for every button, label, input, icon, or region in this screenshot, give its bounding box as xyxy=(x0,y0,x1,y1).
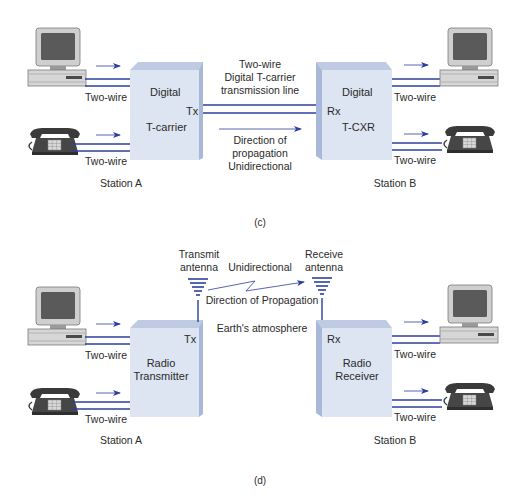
antenna-label: antenna xyxy=(305,261,343,273)
box-label: Digital xyxy=(150,86,181,98)
box-label: T-CXR xyxy=(342,121,375,133)
telephone-icon xyxy=(444,126,495,153)
receive-antenna-icon xyxy=(312,278,332,294)
two-wire-label: Two-wire xyxy=(394,154,436,166)
two-wire-label: Two-wire xyxy=(85,413,127,425)
station-a-phone-wires xyxy=(72,135,132,151)
direction-label: Direction of xyxy=(233,134,286,146)
link-label: transmission line xyxy=(221,84,299,96)
tx-port-label: Tx xyxy=(184,333,197,345)
two-wire-label: Two-wire xyxy=(394,348,436,360)
station-a-computer-wires xyxy=(85,66,132,86)
station-b-phone-wires xyxy=(392,391,442,407)
two-wire-label: Two-wire xyxy=(394,91,436,103)
station-a-computer-wires xyxy=(85,324,132,344)
panel-c: Two-wire Two-wire Digital Tx T-carrier T… xyxy=(28,28,498,228)
computer-icon xyxy=(440,28,498,86)
transmit-antenna-icon xyxy=(188,279,208,295)
box-label: Transmitter xyxy=(133,370,189,382)
computer-icon xyxy=(28,287,86,345)
station-b-computer-wires xyxy=(392,322,440,343)
link-label: Digital T-carrier xyxy=(225,71,296,83)
computer-icon xyxy=(28,28,86,86)
diagram-canvas: Two-wire Two-wire Digital Tx T-carrier T… xyxy=(0,0,511,503)
antenna-label: Transmit xyxy=(179,248,220,260)
box-label: Receiver xyxy=(335,370,379,382)
station-a-label: Station A xyxy=(100,434,142,446)
station-a-label: Station A xyxy=(100,177,142,189)
t-carrier-transmission-line xyxy=(203,105,318,129)
two-wire-label: Two-wire xyxy=(85,91,127,103)
direction-label: Direction of Propagation xyxy=(206,294,319,306)
station-b-label: Station B xyxy=(374,177,417,189)
panel-d: Two-wire Two-wire Tx Radio Transmitter T… xyxy=(28,248,498,486)
link-label: Two-wire xyxy=(239,58,281,70)
propagation-path xyxy=(208,281,304,291)
panel-caption: (c) xyxy=(254,217,266,228)
rx-port-label: Rx xyxy=(327,333,341,345)
direction-label: Unidirectional xyxy=(228,160,292,172)
station-a-phone-wires xyxy=(72,393,132,409)
computer-icon xyxy=(440,285,498,343)
panel-caption: (d) xyxy=(254,475,266,486)
rx-port-label: Rx xyxy=(327,105,341,117)
box-label: Digital xyxy=(342,86,373,98)
two-wire-label: Two-wire xyxy=(85,349,127,361)
station-b-computer-wires xyxy=(392,65,440,86)
direction-label: propagation xyxy=(232,147,288,159)
telephone-icon xyxy=(444,383,495,410)
box-label: Radio xyxy=(147,357,176,369)
atmosphere-label: Earth's atmosphere xyxy=(217,322,308,334)
station-b-phone-wires xyxy=(392,134,442,150)
antenna-label: antenna xyxy=(180,261,218,273)
antenna-label: Receive xyxy=(305,248,343,260)
two-wire-label: Two-wire xyxy=(85,155,127,167)
station-b-label: Station B xyxy=(374,434,417,446)
tx-port-label: Tx xyxy=(186,105,199,117)
box-label: T-carrier xyxy=(146,121,187,133)
unidirectional-label: Unidirectional xyxy=(228,261,292,273)
two-wire-label: Two-wire xyxy=(394,411,436,423)
box-label: Radio xyxy=(343,357,372,369)
